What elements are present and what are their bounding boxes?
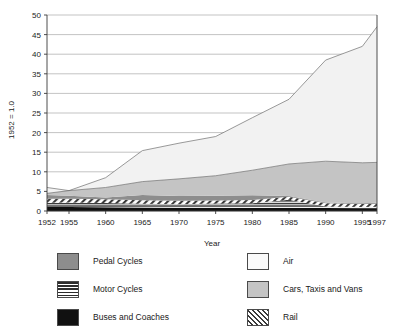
y-axis-label: 1952 = 1.0 [7,100,16,139]
legend-item-air: Air [247,250,363,272]
legend-item-buses-and-coaches: Buses and Coaches [57,306,169,328]
x-tick-label: 1985 [280,218,298,227]
y-axis-ticks: 05101520253035404550 [32,11,47,216]
legend-swatch-rail [247,309,269,326]
x-tick-label: 1975 [207,218,225,227]
legend-swatch-cars-taxis-and-vans [247,281,269,298]
legend-label-cars-taxis-and-vans: Cars, Taxis and Vans [283,284,363,294]
legend-label-buses-and-coaches: Buses and Coaches [93,312,169,322]
y-tick-label: 0 [37,207,42,216]
x-axis-ticks: 1952195519601965197019751980198519901995… [38,211,386,227]
x-tick-label: 1965 [133,218,151,227]
legend-item-motor-cycles: Motor Cycles [57,278,169,300]
legend-item-pedal-cycles: Pedal Cycles [57,250,169,272]
x-tick-label: 1955 [60,218,78,227]
y-tick-label: 35 [32,70,41,79]
legend-label-air: Air [283,256,293,266]
legend-column-right: Air Cars, Taxis and Vans Rail [247,250,363,334]
y-tick-label: 50 [32,11,41,20]
legend-swatch-buses-and-coaches [57,309,79,326]
legend-swatch-air [247,253,269,270]
y-tick-label: 10 [32,168,41,177]
x-axis-label: Year [204,239,221,248]
legend-label-rail: Rail [283,312,298,322]
y-tick-label: 20 [32,129,41,138]
y-tick-label: 15 [32,148,41,157]
x-tick-label: 1980 [243,218,261,227]
chart-container: 05101520253035404550 1952195519601965197… [0,0,411,336]
y-tick-label: 5 [37,187,42,196]
legend-column-left: Pedal Cycles Motor Cycles Buses and Coac… [57,250,169,334]
x-tick-label: 1960 [97,218,115,227]
y-tick-label: 40 [32,50,41,59]
legend-label-pedal-cycles: Pedal Cycles [93,256,143,266]
x-tick-label: 1952 [38,218,56,227]
chart-legend: Pedal Cycles Motor Cycles Buses and Coac… [0,250,411,336]
legend-swatch-motor-cycles [57,281,79,298]
y-tick-label: 45 [32,31,41,40]
area-chart-plot: 05101520253035404550 1952195519601965197… [0,0,411,250]
legend-item-rail: Rail [247,306,363,328]
legend-item-cars-taxis-and-vans: Cars, Taxis and Vans [247,278,363,300]
y-tick-label: 30 [32,89,41,98]
legend-swatch-pedal-cycles [57,253,79,270]
x-tick-label: 1997 [368,218,386,227]
y-tick-label: 25 [32,109,41,118]
x-tick-label: 1970 [170,218,188,227]
legend-label-motor-cycles: Motor Cycles [93,284,143,294]
x-tick-label: 1990 [317,218,335,227]
